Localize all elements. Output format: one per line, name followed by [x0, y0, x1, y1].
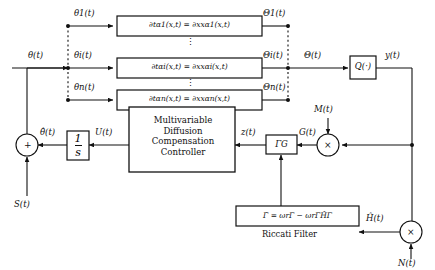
label-theta-i: θi(t)	[74, 51, 92, 60]
label-theta-n: θn(t)	[74, 83, 95, 92]
integrator-denominator: s	[75, 147, 82, 159]
integrator-block-label: 1 s	[67, 133, 89, 158]
pde-equation-row-n: ∂tαn(x,t) = ∂xxαn(x,t)	[121, 95, 258, 103]
controller-line-2: Diffusion	[129, 126, 237, 137]
label-theta-input: θ(t)	[28, 51, 43, 60]
label-y-output: y(t)	[385, 51, 400, 60]
label-Theta-bus: Θ(t)	[304, 51, 321, 60]
controller-line-1: Multivariable	[129, 115, 237, 126]
label-N: N(t)	[398, 259, 416, 268]
label-G: G(t)	[299, 128, 316, 137]
vertical-dots-upper: ⋮	[186, 38, 195, 47]
label-Theta-n: Θn(t)	[263, 83, 286, 92]
label-M: M(t)	[314, 105, 333, 114]
riccati-equation: Γ̇ = ωrΓ − ωrΓĤΓ	[236, 212, 359, 220]
label-theta-1: θ1(t)	[74, 9, 95, 18]
riccati-caption: Riccati Filter	[262, 229, 317, 239]
vertical-dots-lower: ⋮	[186, 79, 195, 88]
branch-dots	[66, 24, 414, 147]
q-block-label: Q(·)	[350, 62, 376, 71]
controller-block-label: Multivariable Diffusion Compensation Con…	[129, 115, 237, 157]
controller-line-4: Controller	[129, 147, 237, 158]
multiplier-lower-glyph: ×	[407, 228, 415, 237]
label-S: S(t)	[14, 200, 30, 209]
sum-junction-sign: +	[24, 141, 32, 150]
multiplier-upper-glyph: ×	[324, 141, 332, 150]
pde-equation-row-1: ∂tα1(x,t) = ∂xxα1(x,t)	[121, 21, 258, 29]
pde-equation-row-i: ∂tαi(x,t) = ∂xxαi(x,t)	[121, 63, 258, 71]
label-z: z(t)	[241, 128, 256, 137]
label-Theta-1: Θ1(t)	[263, 9, 285, 18]
label-Theta-i: Θi(t)	[263, 51, 283, 60]
label-theta-hat: θ̂(t)	[40, 128, 55, 137]
label-H-hat: Ĥ(t)	[366, 214, 383, 223]
integrator-numerator: 1	[75, 133, 82, 145]
gammag-block-label: ΓG	[266, 140, 297, 149]
block-diagram: ∂tα1(x,t) = ∂xxα1(x,t) ∂tαi(x,t) = ∂xxαi…	[0, 0, 435, 270]
label-U: U(t)	[95, 128, 112, 137]
controller-line-3: Compensation	[129, 136, 237, 147]
